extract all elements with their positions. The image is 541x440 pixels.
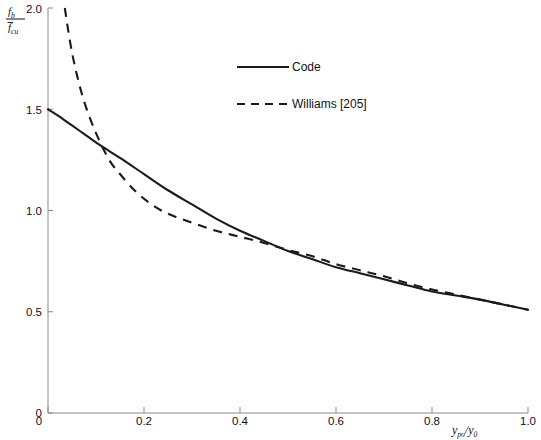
x-tick-label-0-4: 0.4 (232, 415, 249, 427)
y-axis-label-denominator-sub: cu (11, 27, 18, 36)
axes-group (48, 8, 528, 413)
y-tick-label-1-5: 1.5 (26, 104, 42, 116)
legend-label-code: Code (292, 60, 321, 74)
x-axis-label-second-sub: 0 (474, 430, 478, 439)
data-curves (48, 8, 528, 310)
x-tick-label-1-0: 1.0 (520, 415, 536, 427)
y-axis-label-numerator-sub: b (11, 11, 15, 20)
y-axis-label-numerator: fb (8, 5, 15, 20)
y-tick-label-1-0: 1.0 (26, 205, 42, 217)
x-axis-label-text: ypo/y0 (451, 423, 478, 439)
x-axis-label: ypo/y0 (451, 423, 478, 439)
chart-figure: 0 0.5 1.0 1.5 2.0 0 0.2 0.4 0.6 0.8 1.0 … (0, 0, 541, 440)
y-tick-marks (48, 8, 53, 413)
y-axis-label-denominator: fcu (8, 21, 18, 36)
x-tick-labels: 0 0.2 0.4 0.6 0.8 1.0 (36, 415, 536, 427)
y-tick-labels: 0 0.5 1.0 1.5 2.0 (26, 3, 42, 420)
x-tick-label-0-2: 0.2 (136, 415, 152, 427)
x-tick-label-0-8: 0.8 (424, 415, 440, 427)
y-axis-label: fb fcu (6, 5, 25, 36)
curve-williams (65, 8, 528, 310)
chart-canvas: 0 0.5 1.0 1.5 2.0 0 0.2 0.4 0.6 0.8 1.0 … (0, 0, 541, 440)
y-tick-label-0-5: 0.5 (26, 306, 42, 318)
y-tick-label-2-0: 2.0 (26, 3, 42, 15)
x-tick-label-0-6: 0.6 (328, 415, 344, 427)
x-tick-label-0: 0 (36, 415, 42, 427)
legend: Code Williams [205] (237, 60, 367, 111)
curve-code (48, 109, 528, 309)
x-axis-label-main-sub: po (456, 430, 465, 439)
legend-label-williams: Williams [205] (292, 97, 367, 111)
x-tick-marks (48, 407, 528, 413)
